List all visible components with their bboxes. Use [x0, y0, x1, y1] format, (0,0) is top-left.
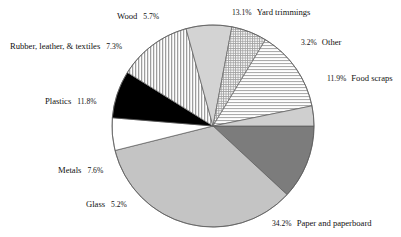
label-other: 3.2%Other — [301, 38, 341, 47]
label-paper-and-paperboard-name: Paper and paperboard — [297, 218, 372, 228]
label-food-scraps: 11.9%Food scraps — [327, 74, 393, 83]
label-metals-name: Metals — [58, 165, 81, 175]
label-other-value: 3.2% — [301, 38, 317, 47]
label-plastics: Plastics11.8% — [45, 97, 97, 106]
label-plastics-value: 11.8% — [77, 97, 96, 106]
label-yard-trimmings: 13.1%Yard trimmings — [232, 8, 310, 17]
label-yard-trimmings-value: 13.1% — [232, 8, 252, 17]
label-wood-value: 5.7% — [143, 12, 159, 21]
label-glass-name: Glass — [86, 199, 105, 209]
label-metals-value: 7.6% — [87, 166, 103, 175]
label-glass: Glass5.2% — [86, 200, 127, 209]
pie-chart-canvas — [0, 0, 401, 237]
label-metals: Metals7.6% — [58, 166, 103, 175]
label-other-name: Other — [322, 37, 342, 47]
label-paper-and-paperboard: 34.2%Paper and paperboard — [272, 219, 372, 228]
label-paper-and-paperboard-value: 34.2% — [272, 219, 292, 228]
label-rubber-leather-textiles: Rubber, leather, & textiles7.3% — [10, 42, 122, 51]
pie-chart: Wood5.7% 13.1%Yard trimmings Rubber, lea… — [0, 0, 401, 237]
label-rubber-leather-textiles-value: 7.3% — [106, 42, 122, 51]
label-wood-name: Wood — [117, 11, 137, 21]
pie-slices — [112, 25, 314, 227]
label-yard-trimmings-name: Yard trimmings — [257, 7, 311, 17]
label-plastics-name: Plastics — [45, 96, 71, 106]
label-wood: Wood5.7% — [117, 12, 159, 21]
label-food-scraps-name: Food scraps — [351, 73, 392, 83]
label-food-scraps-value: 11.9% — [327, 74, 346, 83]
label-glass-value: 5.2% — [111, 200, 127, 209]
label-rubber-leather-textiles-name: Rubber, leather, & textiles — [10, 41, 100, 51]
